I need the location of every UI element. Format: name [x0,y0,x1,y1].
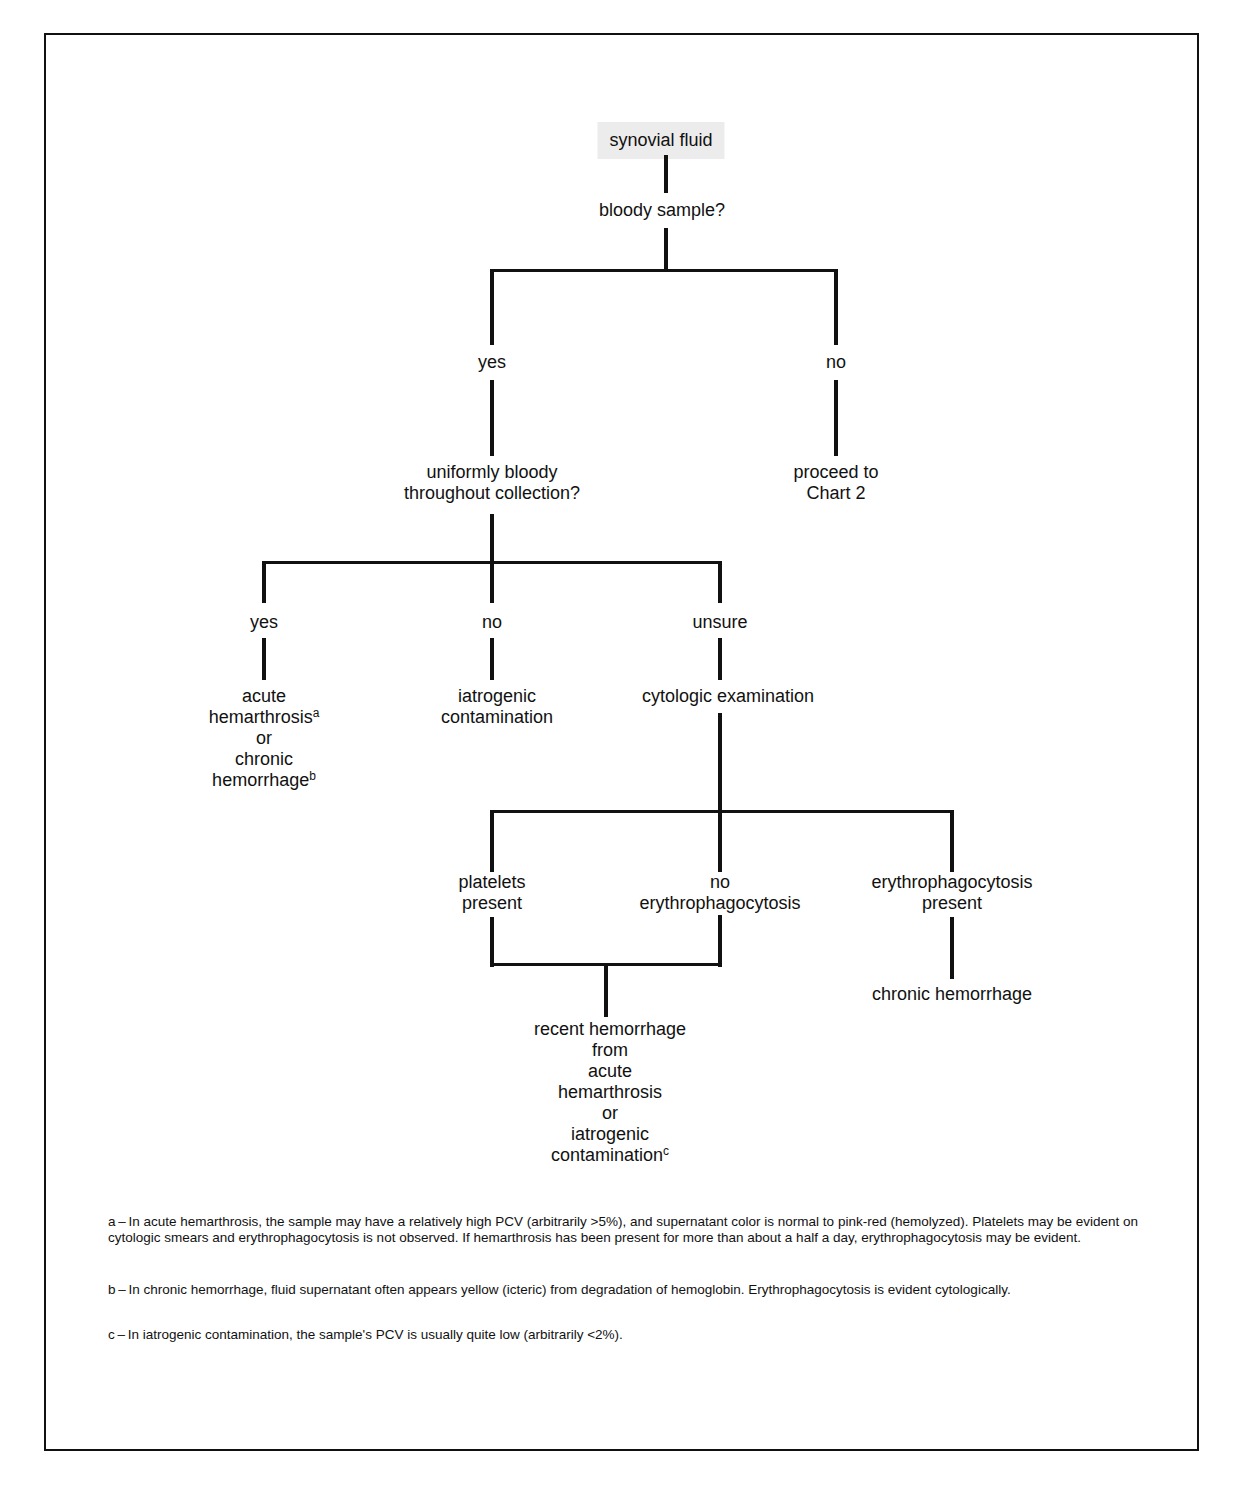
connector [718,561,722,603]
connector [718,810,722,872]
connector [490,638,494,680]
node-acute-or-chronic: acute hemarthrosisa or chronic hemorrhag… [209,686,320,791]
node-chronic-hemorrhage: chronic hemorrhage [872,984,1032,1005]
connector [834,269,838,345]
connector [262,561,266,603]
connector [490,917,494,967]
node-cytologic-exam: cytologic examination [642,686,814,707]
footnote-a: a – In acute hemarthrosis, the sample ma… [108,1214,1148,1246]
connector [718,915,722,967]
branch-yes-2: yes [250,612,278,633]
branch-no: no [826,352,846,373]
connector [718,638,722,680]
branch-no-2: no [482,612,502,633]
connector [262,638,266,680]
node-synovial-fluid: synovial fluid [597,122,724,159]
node-erythrophagocytosis-present: erythrophagocytosispresent [871,872,1032,914]
connector [664,155,668,193]
connector [490,810,494,872]
connector [604,963,608,1017]
connector [950,810,954,872]
node-bloody-sample: bloody sample? [599,200,725,221]
footnote-b: b – In chronic hemorrhage, fluid superna… [108,1282,1148,1298]
connector [834,380,838,456]
branch-yes: yes [478,352,506,373]
connector [490,269,494,345]
footnote-c: c – In iatrogenic contamination, the sam… [108,1327,1148,1343]
node-uniformly-bloody: uniformly bloodythroughout collection? [404,462,580,504]
connector [490,810,954,813]
node-iatrogenic-contamination: iatrogeniccontamination [441,686,553,728]
node-platelets-present: plateletspresent [458,872,525,914]
connector [950,917,954,979]
connector [490,269,838,272]
node-proceed-chart2: proceed toChart 2 [793,462,878,504]
connector [490,561,494,603]
branch-unsure: unsure [692,612,747,633]
connector [490,380,494,456]
connector [490,514,494,564]
connector [718,713,722,813]
connector [664,228,668,270]
node-recent-hemorrhage: recent hemorrhage from acute hemarthrosi… [534,1019,686,1166]
node-no-erythrophagocytosis: noerythrophagocytosis [639,872,800,914]
